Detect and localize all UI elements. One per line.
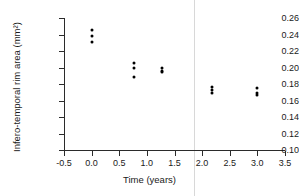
y-tick-mark [59,68,64,69]
y-tick-label: 0.26 [244,14,299,23]
y-axis-line [64,18,65,150]
y-tick-mark [59,51,64,52]
x-tick-mark [64,151,65,156]
x-tick-mark [92,151,93,156]
y-tick-label: 0.18 [244,80,299,89]
scatter-plot-figure: 0.100.120.140.160.180.200.220.240.26 -0.… [0,0,299,196]
x-tick-label: 3.0 [251,159,264,168]
x-tick-mark [119,151,120,156]
x-tick-mark [147,151,148,156]
data-point [132,66,135,69]
y-tick-label: 0.22 [244,47,299,56]
x-axis-title: Time (years) [0,175,299,185]
y-tick-mark [59,117,64,118]
y-tick-label: 0.20 [244,63,299,72]
x-tick-mark [285,151,286,156]
y-tick-mark [59,101,64,102]
data-point [90,40,93,43]
x-tick-mark [230,151,231,156]
data-point [132,76,135,79]
data-point [256,87,259,90]
y-tick-mark [59,18,64,19]
y-tick-label: 0.10 [244,146,299,155]
x-tick-label: 0.0 [85,159,98,168]
data-point [90,35,93,38]
x-tick-label: 2.0 [196,159,209,168]
data-point [256,93,259,96]
y-tick-mark [59,35,64,36]
y-tick-label: 0.24 [244,30,299,39]
y-tick-label: 0.14 [244,113,299,122]
vertical-guide-line [194,0,195,196]
x-tick-label: 1.5 [168,159,181,168]
data-point [90,28,93,31]
y-tick-label: 0.16 [244,96,299,105]
data-point [210,92,213,95]
y-tick-mark [59,134,64,135]
x-tick-label: 1.0 [141,159,154,168]
data-point [160,71,163,74]
y-axis-title: Infero-temporal rim area (mm²) [12,22,22,152]
x-tick-mark [175,151,176,156]
x-tick-label: 2.5 [223,159,236,168]
y-tick-mark [59,84,64,85]
x-tick-label: -0.5 [56,159,72,168]
y-tick-label: 0.12 [244,129,299,138]
x-tick-label: 3.5 [279,159,292,168]
x-tick-label: 0.5 [113,159,126,168]
x-tick-mark [257,151,258,156]
data-point [132,62,135,65]
x-tick-mark [202,151,203,156]
